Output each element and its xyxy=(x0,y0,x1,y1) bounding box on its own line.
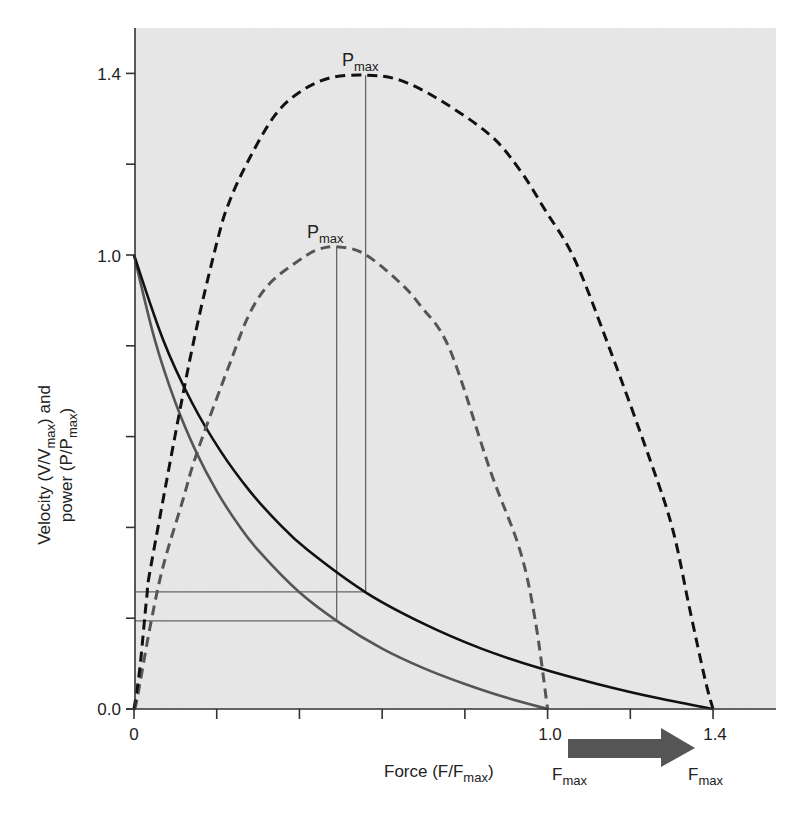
svg-text:Velocity (V/Vmax) and: Velocity (V/Vmax) and xyxy=(35,385,58,545)
fmax-label-1-4: Fmax xyxy=(688,765,723,788)
svg-text:power (P/Pmax): power (P/Pmax) xyxy=(57,408,80,522)
fmax-shift-arrow xyxy=(568,728,695,767)
y-axis-ticks xyxy=(126,73,135,709)
x-axis-title: Force (F/Fmax) xyxy=(384,762,494,785)
x-tick-label-1-4: 1.4 xyxy=(703,725,727,744)
y-tick-label-1-0: 1.0 xyxy=(97,247,121,266)
x-axis-ticks xyxy=(134,709,713,719)
x-tick-label-0: 0 xyxy=(129,725,138,744)
chart-canvas: 1.4 1.0 0.0 0 1.0 1.4 Force (F/Fmax) Vel… xyxy=(0,0,801,816)
x-tick-label-1-0: 1.0 xyxy=(538,725,562,744)
y-axis-title: Velocity (V/Vmax) and power (P/Pmax) xyxy=(35,385,80,545)
y-tick-label-0-0: 0.0 xyxy=(97,700,121,719)
fmax-label-1-0: Fmax xyxy=(552,765,587,788)
y-tick-label-1-4: 1.4 xyxy=(97,65,121,84)
